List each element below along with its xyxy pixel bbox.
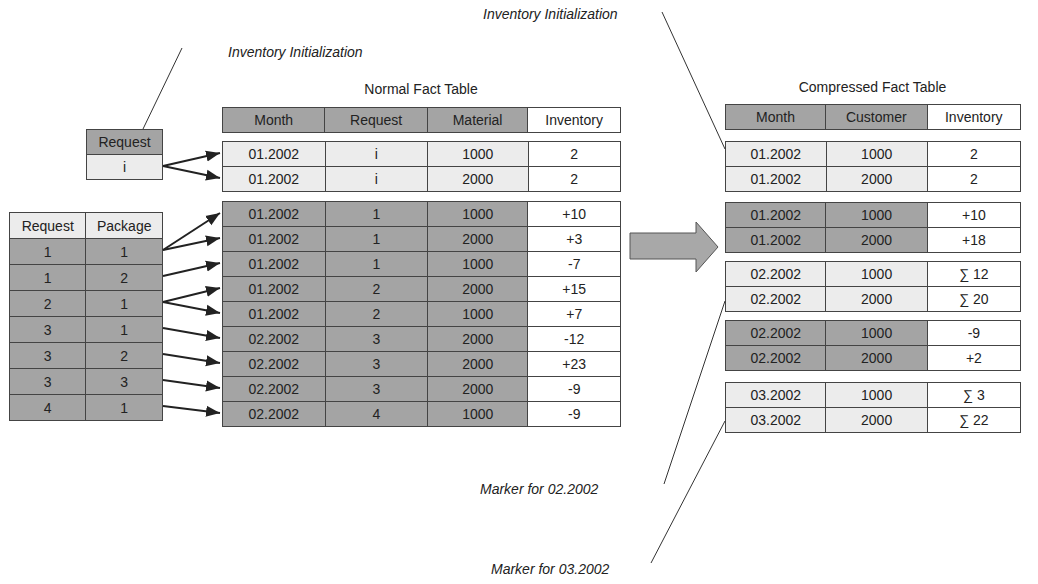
table-row: 01.200211000-7	[223, 252, 621, 277]
cell: 02.2002	[726, 287, 826, 312]
table-row: 32	[10, 343, 163, 369]
cell: 2000	[427, 377, 528, 402]
cell: +10	[927, 203, 1020, 228]
compressed-group-marker-03-2002: 03.20021000∑ 3 03.20022000∑ 22	[725, 382, 1021, 433]
table-row: 02.20022000∑ 20	[726, 287, 1021, 312]
cell: 3	[10, 343, 86, 369]
table-row: 02.200232000-12	[223, 327, 621, 352]
cell: i	[325, 142, 427, 167]
cell: 03.2002	[726, 408, 826, 433]
cell: 1	[86, 395, 163, 421]
cell: 3	[10, 317, 86, 343]
cell: 1	[325, 202, 427, 227]
cell: 1000	[826, 203, 927, 228]
table-row: 02.20021000-9	[726, 321, 1021, 346]
table-row: 01.200211000+10	[223, 202, 621, 227]
cell: 1	[86, 239, 163, 265]
cell: 01.2002	[223, 202, 326, 227]
table-row: 11	[10, 239, 163, 265]
cell: 4	[10, 395, 86, 421]
cell: 01.2002	[726, 167, 827, 192]
cell: 2	[10, 291, 86, 317]
cell: 2	[86, 343, 163, 369]
cell: 1	[325, 227, 427, 252]
cell: 3	[325, 377, 427, 402]
table-row: 03.20021000∑ 3	[726, 383, 1021, 408]
cell: 01.2002	[223, 227, 326, 252]
cell: +7	[528, 302, 621, 327]
header-inventory: Inventory	[927, 105, 1021, 130]
cell: 1000	[826, 142, 927, 167]
caption-marker-02-2002: Marker for 02.2002	[480, 481, 598, 497]
cell: 2	[528, 167, 620, 192]
cell: ∑ 20	[927, 287, 1020, 312]
cell: +23	[528, 352, 621, 377]
cell: 01.2002	[223, 167, 326, 192]
request-init-value: i	[87, 155, 163, 180]
table-row: 02.200241000-9	[223, 402, 621, 427]
header-customer: Customer	[826, 105, 927, 130]
compressed-group-01-2002: 01.20021000+10 01.20022000+18	[725, 202, 1021, 253]
table-row: 02.200232000-9	[223, 377, 621, 402]
cell: 2000	[826, 228, 927, 253]
relation-arrows	[163, 153, 220, 413]
compressed-group-marker-02-2002: 02.20021000∑ 12 02.20022000∑ 20	[725, 261, 1021, 312]
table-row: 41	[10, 395, 163, 421]
header-material: Material	[427, 108, 527, 133]
cell: 1	[10, 265, 86, 291]
normal-fact-table-header: Month Request Material Inventory	[222, 107, 621, 133]
table-row: 01.2002 i 2000 2	[223, 167, 621, 192]
cell: 2000	[427, 227, 528, 252]
cell: -12	[528, 327, 621, 352]
cell: 1000	[427, 302, 528, 327]
cell: 1000	[826, 321, 927, 346]
cell: -9	[528, 377, 621, 402]
cell: 2	[86, 265, 163, 291]
header-month: Month	[223, 108, 325, 133]
cell: 2	[528, 142, 620, 167]
cell: ∑ 12	[927, 262, 1020, 287]
table-row: 01.20022000+18	[726, 228, 1021, 253]
cell: 3	[325, 327, 427, 352]
cell: 2000	[427, 277, 528, 302]
cell: 01.2002	[726, 203, 826, 228]
cell: 01.2002	[223, 252, 326, 277]
cell: +15	[528, 277, 621, 302]
cell: 1000	[826, 383, 927, 408]
cell: 01.2002	[726, 142, 827, 167]
cell: 2	[325, 277, 427, 302]
cell: 01.2002	[223, 277, 326, 302]
cell: 1000	[427, 252, 528, 277]
compressed-fact-table-header: Month Customer Inventory	[725, 104, 1021, 130]
normal-fact-rows: 01.200211000+10 01.200212000+3 01.200211…	[222, 201, 621, 427]
table-row: 02.20022000+2	[726, 346, 1021, 371]
cell: 3	[325, 352, 427, 377]
cell: -9	[927, 321, 1020, 346]
cell: 2000	[826, 346, 927, 371]
table-row: 21	[10, 291, 163, 317]
cell: -7	[528, 252, 621, 277]
cell: 1000	[428, 142, 529, 167]
cell: 02.2002	[223, 377, 326, 402]
caption-inventory-initialization-right: Inventory Initialization	[483, 6, 618, 22]
table-row: 02.20021000∑ 12	[726, 262, 1021, 287]
cell: 2000	[427, 352, 528, 377]
compression-arrow-icon	[630, 222, 718, 272]
cell: 1	[86, 317, 163, 343]
cell: 03.2002	[726, 383, 826, 408]
table-row: 01.200212000+3	[223, 227, 621, 252]
cell: +2	[927, 346, 1020, 371]
cell: 02.2002	[223, 352, 326, 377]
caption-marker-03-2002: Marker for 03.2002	[491, 561, 609, 577]
cell: 2000	[826, 167, 927, 192]
cell: +3	[528, 227, 621, 252]
table-row: 02.200232000+23	[223, 352, 621, 377]
header-package: Package	[86, 213, 163, 239]
cell: 02.2002	[726, 346, 826, 371]
cell: 2000	[826, 408, 927, 433]
table-row: 33	[10, 369, 163, 395]
table-row: 03.20022000∑ 22	[726, 408, 1021, 433]
cell: 3	[10, 369, 86, 395]
header-request: Request	[10, 213, 86, 239]
table-row: 31	[10, 317, 163, 343]
